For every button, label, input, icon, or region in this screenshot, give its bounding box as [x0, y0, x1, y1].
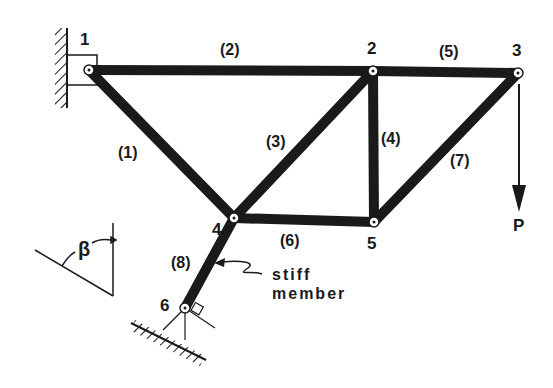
member-label-6: (6) — [280, 232, 300, 249]
node-label-2: 2 — [367, 39, 376, 58]
truss-diagram: 1 2 3 4 5 6 (1) (2) (3) (4) (5) (6) (7) … — [0, 0, 553, 388]
member-label-3: (3) — [266, 133, 286, 150]
member-4 — [373, 71, 374, 222]
stiff-member-pointer — [222, 261, 262, 274]
pin-support-node-6 — [130, 303, 215, 366]
node-label-6: 6 — [160, 296, 169, 315]
node-label-5: 5 — [367, 234, 376, 253]
member-5 — [373, 71, 518, 73]
member-label-5: (5) — [439, 43, 459, 60]
beta-angle-sketch — [35, 223, 116, 296]
stiff-member-label-line1: stiff — [272, 266, 311, 283]
member-label-7: (7) — [450, 152, 470, 169]
member-label-8: (8) — [171, 254, 191, 271]
load-arrow — [512, 84, 526, 212]
member-8 — [185, 218, 234, 308]
member-6 — [234, 218, 374, 222]
node-label-4: 4 — [212, 220, 222, 239]
member-3 — [234, 71, 373, 218]
load-label-p: P — [513, 216, 524, 235]
node-label-3: 3 — [512, 41, 521, 60]
member-label-2: (2) — [220, 41, 240, 58]
member-1 — [89, 70, 234, 218]
member-2 — [89, 70, 373, 71]
beta-label: β — [78, 238, 90, 260]
stiff-member-label-line2: member — [272, 285, 346, 302]
node-label-1: 1 — [80, 30, 89, 49]
member-label-4: (4) — [381, 130, 401, 147]
member-label-1: (1) — [118, 144, 138, 161]
member-7 — [374, 73, 518, 222]
